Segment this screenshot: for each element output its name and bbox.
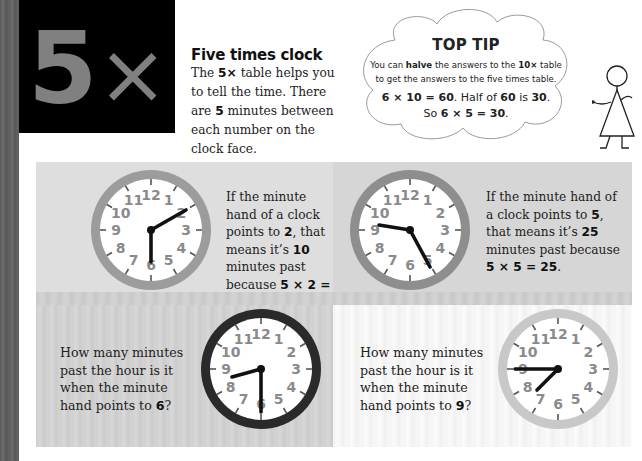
clock-numeral: 8 (226, 379, 236, 395)
clock-numeral: 4 (435, 240, 445, 256)
clock-numeral: 11 (383, 192, 402, 208)
clock-face-icon: 121234567891011 (88, 167, 214, 293)
example-text: If the minute hand of a clock points to … (226, 189, 333, 305)
example-panel-minute-5: 121234567891011 If the minute hand of a … (333, 162, 632, 305)
question-panel-minute-6: How many minutes past the hour is it whe… (36, 305, 333, 447)
clock-numeral: 8 (116, 240, 126, 256)
example-text: If the minute hand of a clock points to … (486, 189, 626, 277)
clock-numeral: 5 (571, 391, 581, 407)
clock-numeral: 7 (129, 252, 139, 268)
clock-numeral: 2 (435, 205, 445, 221)
clock-numeral: 1 (423, 192, 433, 208)
clock-numeral: 6 (405, 257, 415, 273)
top-tip-content: TOP TIP You can halve the answers to the… (355, 36, 577, 122)
hero-badge: 5× (19, 0, 175, 133)
clock-numeral: 8 (375, 240, 385, 256)
clock-face-icon: 121234567891011 (495, 306, 621, 432)
top-tip-line-1: You can halve the answers to the 10× tab… (355, 58, 577, 72)
question-panel-minute-9: How many minutes past the hour is it whe… (333, 305, 632, 447)
stick-figure-icon (592, 64, 636, 154)
clock-numeral: 12 (141, 187, 160, 203)
clock-numeral: 11 (124, 192, 143, 208)
question-text: How many minutes past the hour is it whe… (60, 344, 190, 414)
top-tip-title: TOP TIP (355, 36, 577, 54)
clock-face-icon: 121234567891011 (198, 306, 324, 432)
clock-numeral: 4 (583, 379, 593, 395)
top-tip-equation-2: So 6 × 5 = 30. (355, 106, 577, 122)
clock-numeral: 6 (553, 396, 563, 412)
clock-numeral: 7 (388, 252, 398, 268)
clock-numeral: 3 (291, 361, 301, 377)
top-tip-line-2: to get the answers to the five times tab… (355, 72, 577, 86)
top-tip-equation-1: 6 × 10 = 60. Half of 60 is 30. (355, 90, 577, 106)
clock-numeral: 2 (286, 344, 296, 360)
clock-numeral: 12 (400, 187, 419, 203)
clock-numeral: 1 (571, 331, 581, 347)
top-tip-cloud: TOP TIP You can halve the answers to the… (355, 2, 577, 144)
clock-numeral: 1 (164, 192, 174, 208)
clock-numeral: 5 (164, 252, 174, 268)
question-text: How many minutes past the hour is it whe… (360, 344, 490, 414)
clock-numeral: 5 (274, 391, 284, 407)
page-title: Five times clock (191, 46, 341, 64)
intro-body: The 5× table helps you to tell the time.… (191, 64, 341, 159)
example-panel-minute-2: 121234567891011 If the minute hand of a … (36, 162, 333, 305)
clock-numeral: 9 (221, 361, 231, 377)
clock-numeral: 9 (111, 222, 121, 238)
clock-numeral: 4 (286, 379, 296, 395)
multiply-icon: × (98, 25, 166, 123)
clock-face-icon: 121234567891011 (347, 167, 473, 293)
clock-numeral: 12 (251, 326, 270, 342)
clock-numeral: 3 (181, 222, 191, 238)
book-spine (0, 0, 19, 461)
clock-numeral: 11 (531, 331, 550, 347)
clock-numeral: 12 (548, 326, 567, 342)
intro-section: Five times clock The 5× table helps you … (191, 46, 341, 159)
clock-numeral: 8 (523, 379, 533, 395)
clock-numeral: 3 (440, 222, 450, 238)
clock-numeral: 7 (239, 391, 249, 407)
clock-numeral: 7 (536, 391, 546, 407)
clock-numeral: 1 (274, 331, 284, 347)
clock-numeral: 11 (234, 331, 253, 347)
hero-label: 5× (28, 19, 166, 119)
hero-number: 5 (28, 10, 96, 127)
clock-numeral: 3 (588, 361, 598, 377)
clock-numeral: 2 (583, 344, 593, 360)
clock-numeral: 4 (176, 240, 186, 256)
